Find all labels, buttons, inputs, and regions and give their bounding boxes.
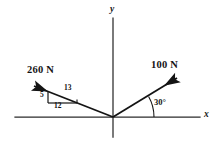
- slope-triangle-vertical-label: 5: [40, 91, 44, 99]
- force-260-vector: [34, 86, 113, 117]
- force-vector-diagram: 260 N 100 N y x 13 5 12 30°: [0, 0, 221, 141]
- slope-triangle-horizontal-label: 12: [54, 102, 62, 110]
- force-100-label: 100 N: [151, 60, 178, 71]
- force-260-label: 260 N: [27, 65, 54, 76]
- force-100-vector: [113, 78, 177, 117]
- slope-triangle-hypotenuse-label: 13: [64, 84, 72, 92]
- x-axis-label: x: [204, 110, 209, 120]
- angle-30-label: 30°: [154, 98, 166, 107]
- y-axis-label: y: [110, 5, 114, 15]
